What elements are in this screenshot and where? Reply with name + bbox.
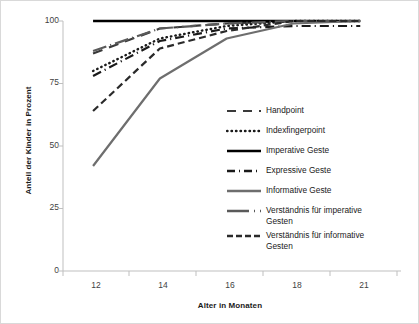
x-axis-ticks (63, 271, 397, 276)
series-line-1 (93, 21, 360, 71)
series-line-6 (93, 21, 360, 111)
chart-legend: Handpoint Indexfingerpoint Imperative Ge… (226, 105, 416, 255)
legend-label-verstaendnis-imperative: Verständnis für imperative Gesten (266, 205, 362, 226)
legend-label-verstaendnis-informative: Verständnis für informative Gesten (266, 230, 364, 251)
legend-label-expressive-geste: Expressive Geste (266, 165, 331, 176)
dotted-swatch (226, 126, 262, 136)
medium-dash-swatch (226, 231, 262, 241)
legend-label-imperative-geste: Imperative Geste (266, 145, 329, 156)
legend-item-verstaendnis-imperative: Verständnis für imperative Gesten (226, 205, 416, 226)
legend-label-handpoint: Handpoint (266, 105, 304, 116)
solid-swatch (226, 146, 262, 156)
dash-dot-swatch (226, 166, 262, 176)
legend-label-informative-geste: Informative Geste (266, 185, 331, 196)
y-axis-ticks (58, 21, 63, 271)
legend-item-handpoint: Handpoint (226, 105, 416, 116)
chart-figure: Anteil der Kinder in Prozent 100 75 50 2… (0, 0, 419, 324)
legend-label-indexfingerpoint: Indexfingerpoint (266, 125, 325, 136)
legend-item-informative-geste: Informative Geste (226, 185, 416, 196)
solid-gray-swatch (226, 186, 262, 196)
legend-item-imperative-geste: Imperative Geste (226, 145, 416, 156)
legend-item-expressive-geste: Expressive Geste (226, 165, 416, 176)
legend-item-indexfingerpoint: Indexfingerpoint (226, 125, 416, 136)
long-dash-swatch (226, 106, 262, 116)
legend-item-verstaendnis-informative: Verständnis für informative Gesten (226, 230, 416, 251)
dash-dot-gray-swatch (226, 206, 262, 216)
